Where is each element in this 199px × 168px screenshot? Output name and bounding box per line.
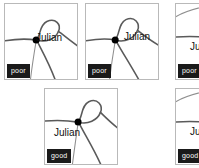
status-badge: poor	[178, 64, 199, 78]
place-label: Julian	[124, 31, 150, 42]
status-badge: poor	[88, 64, 111, 78]
status-badge: poor	[7, 64, 30, 78]
status-badge: good	[47, 149, 71, 163]
map-panel[interactable]: Julian poor	[4, 3, 78, 80]
status-badge: good	[178, 149, 199, 163]
map-thumbnail-grid: Julian poor Julian poor Julian poor	[0, 0, 199, 168]
map-node	[112, 37, 119, 44]
map-panel[interactable]: Julian poor	[85, 3, 159, 80]
place-label: Julian	[190, 41, 199, 52]
map-panel[interactable]: Julian good	[44, 88, 118, 165]
place-label: Julian	[54, 127, 80, 138]
map-panel[interactable]: Julian good	[175, 88, 199, 165]
map-node	[75, 119, 82, 126]
map-panel[interactable]: Julian poor	[175, 3, 199, 80]
place-label: Julian	[190, 126, 199, 137]
place-label: Julian	[36, 32, 62, 43]
